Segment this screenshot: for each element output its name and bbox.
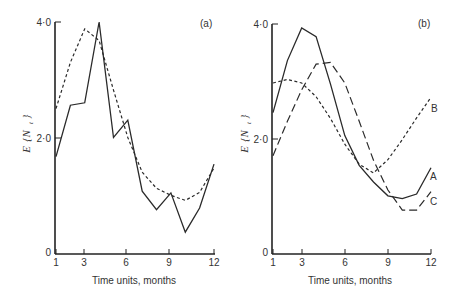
- x-tick-label: 9: [385, 257, 391, 268]
- x-axis-title: Time units, months: [92, 275, 176, 286]
- svg-text:{N: {N: [20, 130, 32, 142]
- x-tick-label: 12: [208, 257, 220, 268]
- svg-text:}: }: [238, 114, 250, 119]
- series-C-label: C: [430, 196, 437, 207]
- panel-a: (a) 4·0 2·0 0 1 3 6 9 12 Time units, mon…: [20, 17, 220, 286]
- series-C-line: [273, 62, 431, 210]
- series-fitted-line: [56, 29, 214, 201]
- svg-text:}: }: [20, 114, 32, 119]
- x-tick-label: 3: [81, 257, 87, 268]
- y-tick-label: 4·0: [254, 19, 269, 30]
- y-tick-label: 0: [262, 247, 268, 258]
- series-A-line: [273, 28, 431, 199]
- x-tick-label: 1: [270, 257, 276, 268]
- series-B-line: [273, 80, 431, 173]
- x-tick-label: 9: [166, 257, 172, 268]
- panel-a-label: (a): [200, 18, 212, 29]
- panel-b: (b) 4·0 2·0 0 1 3 6 9 12 Time units, mon…: [238, 18, 438, 286]
- x-tick-label: 6: [342, 257, 348, 268]
- series-B-label: B: [431, 103, 438, 114]
- y-tick-label: 2·0: [37, 133, 52, 144]
- x-tick-label: 3: [299, 257, 305, 268]
- series-observed-line: [56, 22, 214, 232]
- svg-text:t: t: [245, 121, 253, 124]
- x-axis-title: Time units, months: [308, 275, 392, 286]
- y-tick-label: 2·0: [254, 134, 269, 145]
- svg-text:{N: {N: [238, 130, 250, 142]
- x-tick-label: 6: [123, 257, 129, 268]
- y-tick-label: 4·0: [37, 17, 52, 28]
- svg-text:t: t: [27, 121, 35, 124]
- x-tick-label: 1: [53, 257, 59, 268]
- x-tick-label: 12: [425, 257, 437, 268]
- y-tick-label: 0: [45, 247, 51, 258]
- svg-text:E: E: [238, 146, 250, 154]
- svg-text:E: E: [20, 146, 32, 154]
- figure: (a) 4·0 2·0 0 1 3 6 9 12 Time units, mon…: [0, 0, 455, 297]
- panel-b-label: (b): [418, 18, 430, 29]
- y-axis-title: E {N t }: [20, 114, 35, 154]
- series-A-label: A: [430, 171, 437, 182]
- y-axis-title: E {N t }: [238, 114, 253, 154]
